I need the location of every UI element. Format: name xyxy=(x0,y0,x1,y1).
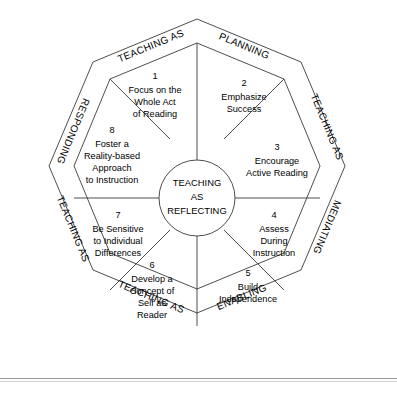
segment-4-line-2: During xyxy=(260,236,287,246)
footer-divider xyxy=(0,378,397,379)
segment-8-line-2: Reality-based xyxy=(84,151,140,161)
segment-8-number: 8 xyxy=(109,125,114,135)
segment-3[interactable]: 3 Encourage Active Reading xyxy=(246,142,308,178)
teaching-wheel-diagram: TEACHING AS REFLECTING 1 Focus on the Wh… xyxy=(0,0,397,410)
segment-1-number: 1 xyxy=(152,71,157,81)
segment-1[interactable]: 1 Focus on the Whole Act of Reading xyxy=(128,71,181,119)
band-top-left-label: TEACHING AS xyxy=(116,27,185,64)
segment-8-line-4: to Instruction xyxy=(86,175,139,185)
segment-8-line-1: Foster a xyxy=(95,139,130,149)
footer-divider-secondary xyxy=(0,381,397,382)
segment-4-line-1: Assess xyxy=(259,224,289,234)
segment-5-number: 5 xyxy=(245,268,250,278)
segment-7[interactable]: 7 Be Sensitive to Individual Differences xyxy=(92,210,143,258)
segment-7-line-3: Differences xyxy=(95,248,142,258)
segment-6-line-4: Reader xyxy=(137,310,167,320)
diagram-root: TEACHING AS REFLECTING 1 Focus on the Wh… xyxy=(0,0,397,410)
segment-2-number: 2 xyxy=(241,78,246,88)
segment-3-line-1: Encourage xyxy=(255,156,299,166)
segment-2-line-1: Emphasize xyxy=(221,92,266,102)
segment-3-line-2: Active Reading xyxy=(246,168,308,178)
segment-7-number: 7 xyxy=(115,210,120,220)
segment-8-line-3: Approach xyxy=(92,163,131,173)
segment-2[interactable]: 2 Emphasize Success xyxy=(221,78,266,114)
segment-1-line-2: Whole Act xyxy=(134,97,176,107)
band-top-right-label: PLANNING xyxy=(218,30,272,61)
center-line-2: AS xyxy=(191,191,204,202)
band-left-lower-label: TEACHING AS xyxy=(55,194,92,263)
segment-7-line-1: Be Sensitive xyxy=(92,224,143,234)
segment-1-line-3: of Reading xyxy=(133,109,177,119)
center-line-1: TEACHING xyxy=(173,177,221,188)
segment-8[interactable]: 8 Foster a Reality-based Approach to Ins… xyxy=(84,125,140,185)
segment-2-line-2: Success xyxy=(227,104,262,114)
segment-7-line-2: to Individual xyxy=(93,236,142,246)
segment-3-number: 3 xyxy=(274,142,279,152)
segment-4[interactable]: 4 Assess During Instruction xyxy=(253,210,295,258)
segment-1-line-1: Focus on the xyxy=(128,85,181,95)
center-line-3: REFLECTING xyxy=(167,205,226,216)
segment-6-number: 6 xyxy=(149,260,154,270)
segment-6-line-1: Develop a xyxy=(131,274,173,284)
segment-4-number: 4 xyxy=(271,210,276,220)
segment-4-line-3: Instruction xyxy=(253,248,295,258)
